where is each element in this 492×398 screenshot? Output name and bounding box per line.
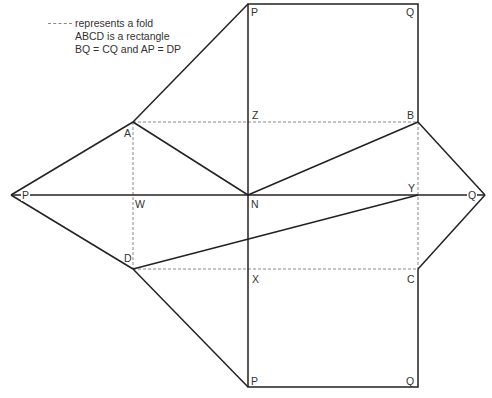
legend-fold-row: represents a fold <box>48 17 181 30</box>
label-Q-right: Q <box>467 190 477 201</box>
bottom-rectangle <box>248 269 418 387</box>
line-D-Y <box>133 195 418 269</box>
legend-rectangle-text: ABCD is a rectangle <box>48 30 181 43</box>
label-B: B <box>407 110 414 121</box>
label-C: C <box>407 274 415 285</box>
top-rectangle <box>248 4 418 122</box>
label-Y: Y <box>408 183 415 194</box>
label-P-bottom: P <box>251 376 258 387</box>
label-D: D <box>124 253 132 264</box>
solid-lines <box>11 4 485 387</box>
line-D-Pbottom <box>133 269 248 387</box>
label-N: N <box>251 199 259 210</box>
label-P-top: P <box>251 7 258 18</box>
label-A: A <box>124 128 131 139</box>
line-A-Pleft <box>11 122 133 195</box>
label-W: W <box>135 199 145 210</box>
line-C-Qright <box>418 195 485 269</box>
label-P-left: P <box>21 190 30 201</box>
label-Q-top: Q <box>406 7 414 18</box>
label-Q-bottom: Q <box>406 376 414 387</box>
line-B-Qright <box>418 122 485 195</box>
net-diagram <box>0 0 492 398</box>
line-N-B <box>248 122 418 195</box>
line-D-Pleft <box>11 195 133 269</box>
label-Z: Z <box>252 110 258 121</box>
line-A-N <box>133 122 248 195</box>
dashed-line-sample <box>48 23 72 24</box>
legend-equality-text: BQ = CQ and AP = DP <box>48 43 181 56</box>
legend: represents a fold ABCD is a rectangle BQ… <box>48 17 181 56</box>
label-X: X <box>252 274 259 285</box>
legend-fold-text: represents a fold <box>75 17 153 30</box>
